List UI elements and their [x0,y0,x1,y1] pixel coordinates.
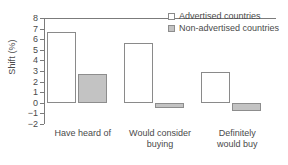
legend-label-non-advertised: Non-advertised countries [179,23,279,34]
y-tick-label: 6 [33,35,38,44]
y-tick-label: 7 [33,24,38,33]
y-axis-title: Shift (%) [7,27,17,87]
y-tick-mark [40,71,44,72]
y-tick-mark [40,39,44,40]
y-tick-mark [40,124,44,125]
y-tick-mark [40,18,44,19]
y-tick-mark [40,92,44,93]
bar [155,103,184,108]
legend-item-non-advertised: Non-advertised countries [168,23,279,34]
y-tick-label: −1 [28,109,38,118]
legend-label-advertised: Advertised countries [179,11,261,22]
y-tick-mark [40,50,44,51]
bar [78,74,107,103]
bar [124,43,153,102]
legend-swatch-non-advertised [168,25,175,32]
bar [47,32,76,103]
y-tick-label: 0 [33,98,38,107]
y-tick-mark [40,113,44,114]
y-tick-mark [40,103,44,104]
legend: Advertised countries Non-advertised coun… [168,11,279,35]
y-tick-label: 1 [33,88,38,97]
bar [232,103,261,111]
y-tick-label: 8 [33,14,38,23]
y-tick-label: 5 [33,45,38,54]
bar-chart: Shift (%) 876543210−1−2 Have heard ofWou… [0,0,288,165]
y-tick-mark [40,82,44,83]
legend-item-advertised: Advertised countries [168,11,279,22]
y-tick-mark [40,60,44,61]
y-tick-label: 2 [33,77,38,86]
x-axis-label: Definitely would buy [191,128,284,150]
y-tick-label: 3 [33,67,38,76]
y-tick-mark [40,29,44,30]
bar [201,72,230,103]
legend-swatch-advertised [168,13,175,20]
y-tick-label: 4 [33,56,38,65]
